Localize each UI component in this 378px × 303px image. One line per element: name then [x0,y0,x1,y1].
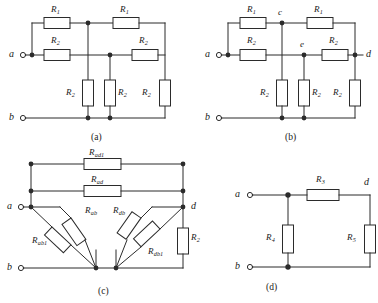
circuit-figure: a b R1 R1 R2 R2 R2 R2 R2 (a) [0,0,378,303]
panel-a-resistor-vert-3-label: R2 [142,88,151,97]
panel-d-terminal-b-label: b [235,261,240,271]
panel-c-resistor-bus-second-label: Rad [91,175,103,184]
panel-c-caption: (c) [98,286,109,296]
panel-d-terminal-a-label: a [235,189,240,199]
panel-c-terminal-b-label: b [7,262,12,272]
panel-a-resistor-top-right-label: R1 [120,5,129,14]
panel-b-resistor-top-left-label: R1 [247,5,256,14]
panel-b-terminal-a-label: a [205,49,210,59]
panel-d-caption: (d) [266,282,277,292]
panel-a-caption: (a) [91,132,102,142]
panel-b-terminal-b-label: b [205,112,210,122]
panel-a-resistor-mid-right-label: R2 [139,36,148,45]
panel-a: a b R1 R1 R2 R2 R2 R2 R2 (a) [0,0,200,150]
panel-a-resistor-mid-left-label: R2 [51,36,60,45]
panel-a-terminal-a-label: a [9,49,14,59]
panel-c-schematic [0,150,210,303]
panel-d-terminal-d-label: d [364,177,369,187]
panel-b-resistor-mid-right-label: R2 [329,36,338,45]
panel-d-schematic [210,150,378,303]
panel-c-terminal-d-label: d [191,201,196,211]
panel-c-resistor-diag-ab-label: Rab [85,206,97,215]
panel-b-resistor-vert-2-label: R2 [312,88,321,97]
panel-c-resistor-bus-top-label: Rad1 [89,148,104,157]
panel-a-resistor-vert-2-label: R2 [118,88,127,97]
panel-c: a b d Rad1 Rad Rab Rab1 Rdb Rdb1 R2 (c) [0,150,210,303]
panel-a-terminal-b-label: b [9,112,14,122]
panel-b-terminal-d-label: d [366,49,371,59]
panel-a-resistor-vert-1-label: R2 [66,88,75,97]
panel-c-resistor-diag-db1-label: Rdb1 [148,247,163,256]
panel-c-resistor-diag-ab1-label: Rab1 [32,236,47,245]
panel-b: a b d c e R1 R1 R2 R2 R2 R2 R2 (b) [200,0,378,150]
panel-b-node-c-label: c [278,8,282,17]
panel-b-node-e-label: e [300,40,304,49]
panel-d-resistor-top-label: R3 [316,175,325,184]
panel-c-resistor-vert-right-label: R2 [191,233,200,242]
panel-a-schematic [0,0,200,150]
panel-b-resistor-top-right-label: R1 [314,5,323,14]
panel-c-terminal-a-label: a [7,201,12,211]
panel-a-resistor-top-left-label: R1 [51,5,60,14]
panel-d: a b d R3 R4 R5 (d) [210,150,378,303]
panel-d-resistor-vert-right-label: R5 [347,233,356,242]
panel-d-resistor-vert-left-label: R4 [266,233,275,242]
panel-b-schematic [200,0,378,150]
panel-b-resistor-mid-left-label: R2 [247,36,256,45]
panel-c-resistor-diag-db-label: Rdb [113,206,125,215]
panel-b-resistor-vert-1-label: R2 [260,88,269,97]
panel-b-resistor-vert-3-label: R2 [333,88,342,97]
panel-b-caption: (b) [285,132,296,142]
